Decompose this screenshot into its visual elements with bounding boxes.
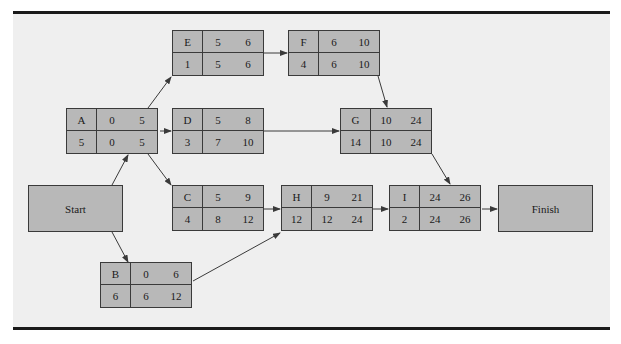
finish-label: Finish (532, 203, 560, 215)
earliest-finish: 6 (233, 31, 263, 53)
activity-label: I (390, 186, 420, 208)
duration: 1 (173, 53, 203, 75)
activity-node-a: A 0 5 5 0 5 (66, 108, 158, 154)
activity-node-c: C 5 9 4 8 12 (172, 185, 264, 231)
activity-label: D (173, 109, 203, 131)
latest-start: 5 (203, 53, 233, 75)
latest-finish: 10 (349, 53, 379, 75)
activity-label: B (101, 263, 131, 285)
start-label: Start (65, 203, 86, 215)
latest-start: 24 (420, 208, 450, 230)
activity-node-b: B 0 6 6 6 12 (100, 262, 192, 308)
edge-b-h (193, 233, 280, 281)
earliest-start: 24 (420, 186, 450, 208)
earliest-start: 6 (319, 31, 349, 53)
activity-node-i: I 24 26 2 24 26 (389, 185, 481, 231)
activity-node-h: H 9 21 12 12 24 (281, 185, 373, 231)
latest-start: 8 (203, 208, 233, 230)
duration: 6 (101, 285, 131, 307)
earliest-finish: 10 (349, 31, 379, 53)
earliest-finish: 6 (161, 263, 191, 285)
duration: 3 (173, 131, 203, 153)
activity-label: F (289, 31, 319, 53)
duration: 2 (390, 208, 420, 230)
activity-label: G (341, 109, 371, 131)
latest-finish: 12 (161, 285, 191, 307)
earliest-start: 9 (312, 186, 342, 208)
edge-start-a (112, 155, 128, 185)
latest-finish: 12 (233, 208, 263, 230)
latest-start: 6 (131, 285, 161, 307)
earliest-finish: 5 (127, 109, 157, 131)
latest-finish: 5 (127, 131, 157, 153)
activity-node-g: G 10 24 14 10 24 (340, 108, 432, 154)
earliest-start: 5 (203, 31, 233, 53)
latest-start: 12 (312, 208, 342, 230)
latest-start: 7 (203, 131, 233, 153)
edge-a-c (148, 154, 171, 185)
activity-label: A (67, 109, 97, 131)
edge-f-g (378, 76, 387, 107)
earliest-finish: 9 (233, 186, 263, 208)
earliest-start: 5 (203, 109, 233, 131)
activity-node-e: E 5 6 1 5 6 (172, 30, 264, 76)
activity-label: C (173, 186, 203, 208)
duration: 4 (289, 53, 319, 75)
duration: 12 (282, 208, 312, 230)
latest-start: 10 (371, 131, 401, 153)
earliest-finish: 8 (233, 109, 263, 131)
duration: 4 (173, 208, 203, 230)
activity-label: H (282, 186, 312, 208)
finish-node: Finish (498, 185, 593, 232)
duration: 14 (341, 131, 371, 153)
duration: 5 (67, 131, 97, 153)
earliest-start: 10 (371, 109, 401, 131)
earliest-finish: 21 (342, 186, 372, 208)
edge-g-i (432, 154, 450, 184)
latest-finish: 24 (342, 208, 372, 230)
earliest-start: 0 (131, 263, 161, 285)
latest-start: 0 (97, 131, 127, 153)
start-node: Start (28, 185, 123, 232)
latest-finish: 6 (233, 53, 263, 75)
edge-a-e (148, 77, 171, 108)
activity-node-f: F 6 10 4 6 10 (288, 30, 380, 76)
earliest-finish: 24 (401, 109, 431, 131)
latest-finish: 24 (401, 131, 431, 153)
latest-start: 6 (319, 53, 349, 75)
activity-node-d: D 5 8 3 7 10 (172, 108, 264, 154)
latest-finish: 26 (450, 208, 480, 230)
earliest-start: 5 (203, 186, 233, 208)
edge-start-b (112, 232, 128, 262)
earliest-finish: 26 (450, 186, 480, 208)
activity-label: E (173, 31, 203, 53)
latest-finish: 10 (233, 131, 263, 153)
earliest-start: 0 (97, 109, 127, 131)
